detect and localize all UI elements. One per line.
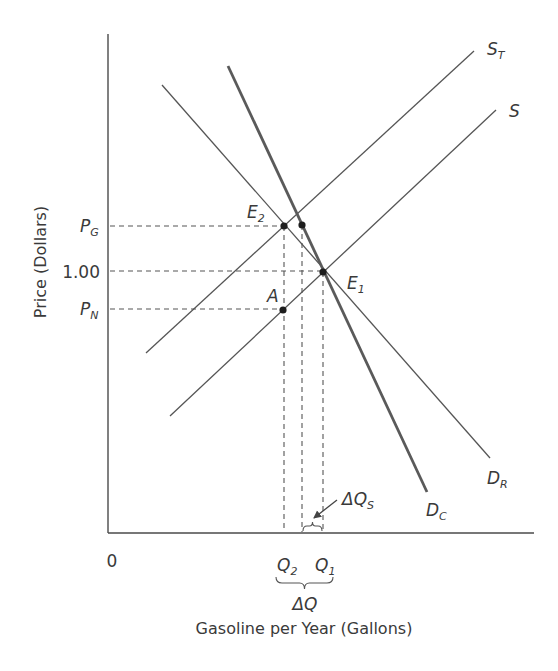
point-a [279,306,286,313]
point-e1 [319,268,326,275]
curve-dc [228,66,427,492]
curve-s [170,110,496,416]
point-dot-dc [298,221,305,228]
delta-qs-brace [303,522,322,531]
delta-q-brace [276,577,333,589]
delta-qs-arrow [314,500,337,518]
x-tick-q1: Q1 [315,555,335,578]
curve-label-dc: DC [426,500,447,523]
x-axis-title: Gasoline per Year (Gallons) [196,619,413,638]
y-axis-tick-labels: PG1.00PN [62,216,100,322]
point-e2 [280,222,287,229]
point-label-e1: E1 [347,273,365,296]
y-tick-pn: PN [80,299,99,322]
curve-label-dr: DR [487,468,508,491]
x-tick-q2: Q2 [277,555,297,578]
y-tick-one: 1.00 [62,262,100,282]
y-axis-title: Price (Dollars) [31,206,50,318]
curve-st [146,51,474,353]
origin-label: 0 [107,551,118,571]
point-label-e2: E2 [247,202,265,225]
y-tick-pg: PG [80,216,99,239]
point-label-a: A [266,286,279,306]
delta-q-label: ΔQ [290,594,317,614]
curves: STSDRDC [146,39,520,523]
dashed-guide-lines [110,225,323,532]
curve-label-st: ST [487,39,506,62]
equilibrium-points: E2E1A [247,202,365,314]
axes [108,34,534,533]
supply-demand-diagram: STSDRDC E2E1A PG1.00PN Q2Q1 0 Price (Dol… [0,0,558,671]
x-axis-tick-labels: Q2Q1 [277,555,335,578]
curve-label-s: S [509,101,520,121]
delta-qs-label: ΔQS [340,489,374,512]
delta-annotations: ΔQS ΔQ [276,489,374,614]
